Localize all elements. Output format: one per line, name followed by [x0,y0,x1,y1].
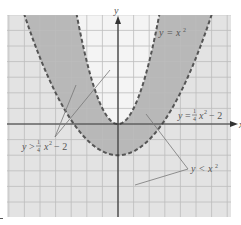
svg-text:4: 4 [193,116,196,122]
x-axis-arrow-icon [230,121,238,127]
svg-text:>: > [29,141,35,152]
svg-text:=: = [185,110,191,121]
svg-text:− 2: − 2 [54,141,67,152]
svg-text:y: y [21,141,27,152]
svg-text:1: 1 [193,108,196,114]
graph: x y y = x 2 y = 1 4 x 2 − 2 y > 1 4 x 2 … [0,0,241,225]
svg-text:2: 2 [204,109,207,115]
y-axis-label: y [113,5,119,16]
svg-text:− 2: − 2 [209,110,222,121]
label-upper-curve: y = x 2 [158,27,186,38]
corner-mark [0,218,3,219]
x-axis-label: x [238,119,241,130]
svg-text:y: y [177,110,183,121]
svg-text:1: 1 [37,139,40,145]
label-inequality-upper: y < x 2 [190,163,218,174]
svg-text:4: 4 [37,147,40,153]
svg-text:2: 2 [49,140,52,146]
